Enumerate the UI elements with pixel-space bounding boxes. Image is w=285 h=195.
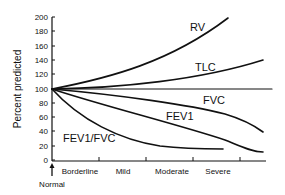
category-moderate: Moderate [155, 167, 189, 176]
ytick-0: 0 [44, 156, 49, 165]
normal-label: Normal [39, 180, 65, 189]
ytick-180: 180 [35, 27, 49, 36]
category-severe: Severe [205, 167, 231, 176]
label-fev1-fvc: FEV1/FVC [63, 132, 116, 144]
y-axis-title: Percent predicted [12, 50, 23, 128]
ytick-120: 120 [35, 70, 49, 79]
spirometry-chart: 0 20 40 60 80 100 120 140 160 180 200 Pe… [0, 0, 285, 195]
label-rv: RV [190, 21, 206, 33]
label-fev1: FEV1 [166, 110, 194, 122]
curve-fvc [52, 89, 263, 132]
ytick-140: 140 [35, 56, 49, 65]
normal-arrow-icon [50, 163, 55, 176]
category-borderline: Borderline [62, 167, 99, 176]
ytick-160: 160 [35, 42, 49, 51]
ytick-60: 60 [39, 113, 48, 122]
label-tlc: TLC [195, 61, 216, 73]
x-category-labels: Borderline Mild Moderate Severe [62, 167, 231, 176]
curve-tlc [52, 60, 263, 89]
ytick-20: 20 [39, 142, 48, 151]
ytick-100: 100 [35, 85, 49, 94]
ytick-40: 40 [39, 127, 48, 136]
ytick-200: 200 [35, 13, 49, 22]
y-tick-labels: 0 20 40 60 80 100 120 140 160 180 200 [35, 13, 49, 165]
category-mild: Mild [116, 167, 131, 176]
label-fvc: FVC [203, 94, 225, 106]
ytick-80: 80 [39, 99, 48, 108]
